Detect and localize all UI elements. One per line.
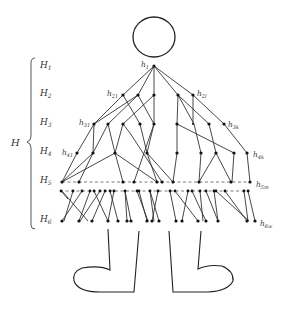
- node-label-h5m: h5m: [256, 180, 269, 190]
- node-label-h1: h1: [141, 60, 149, 70]
- node-label-h3k: h3k: [228, 120, 239, 130]
- level-label-h4: H4: [39, 146, 52, 157]
- hierarchy-figure-diagram: H H1 H2 H3 H4 H5 H6: [0, 0, 288, 309]
- level-label-h2: H2: [39, 88, 52, 99]
- level-labels: H1 H2 H3 H4 H5 H6: [39, 60, 52, 225]
- level-bracket: [27, 58, 35, 229]
- dashed-separators: [60, 182, 251, 191]
- tree-edges: [61, 66, 255, 221]
- level-label-h6: H6: [39, 214, 52, 225]
- node-label-h6w: h6w: [260, 219, 273, 229]
- legs: [74, 229, 233, 292]
- left-boot: [74, 229, 139, 292]
- node-label-h4k: h4k: [253, 150, 264, 160]
- node-label-h31: h31: [79, 118, 90, 128]
- tree-nodes: [60, 64, 257, 222]
- level-label-h1: H1: [39, 60, 52, 71]
- right-boot: [169, 231, 233, 292]
- head-circle: [133, 17, 175, 57]
- level-label-h3: H3: [39, 117, 52, 128]
- bracket-label: H: [10, 137, 20, 148]
- node-label-h41: h41: [62, 148, 73, 158]
- level-label-h5: H5: [39, 175, 52, 186]
- node-label-h21: h21: [107, 89, 118, 99]
- node-label-h2l: h2l: [197, 89, 207, 99]
